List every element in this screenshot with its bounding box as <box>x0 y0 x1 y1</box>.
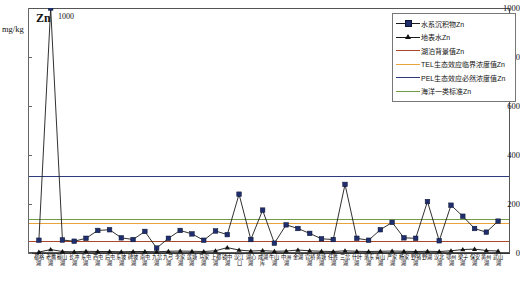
series-line <box>39 248 498 252</box>
data-point <box>60 238 65 243</box>
data-point <box>201 238 206 243</box>
data-point <box>319 236 324 241</box>
x-axis-label: 东屯湖 <box>81 255 91 266</box>
x-axis-label: 野猪湖 <box>411 255 421 266</box>
x-axis-label: 金湖 <box>293 255 303 261</box>
data-point <box>237 192 242 197</box>
data-point <box>131 237 136 242</box>
x-axis-label: 严家湖 <box>387 255 397 266</box>
data-point <box>413 236 418 241</box>
legend-item-0[interactable]: 水系沉积物Zn <box>395 17 512 31</box>
x-axis-label: 碑坡湖 <box>128 255 138 266</box>
legend-swatch-icon <box>395 45 421 57</box>
x-axis-label: 黄州湖 <box>481 255 491 266</box>
data-point <box>366 238 371 243</box>
x-axis-label: 上都湖 <box>211 255 221 266</box>
x-axis-label: 长冲湖 <box>69 255 79 266</box>
x-axis-label: 湖心湖 <box>246 255 256 266</box>
legend-item-5[interactable]: 海洋一类标准Zn <box>395 85 512 99</box>
data-point <box>484 230 489 235</box>
x-axis-label: 野湖 <box>422 255 432 261</box>
data-point <box>472 226 477 231</box>
x-axis-label: 九弓湖 <box>163 255 173 266</box>
data-point <box>425 199 430 204</box>
x-axis-label: 碳山湖 <box>57 255 67 266</box>
x-axis-label: 黄塘湖 <box>316 255 326 266</box>
x-axis-category-labels: 都格湖老鹰湖碳山湖长冲湖东屯湖西屯湖后屯湖东坡湖碑坡湖南屯湖九岔湖九弓湖李家湖莲… <box>28 255 510 293</box>
x-axis-label: 鄂州湖 <box>446 255 456 266</box>
x-axis-label: 任胜湖 <box>328 255 338 266</box>
data-point <box>48 6 53 11</box>
data-point <box>72 239 77 244</box>
data-point <box>143 229 148 234</box>
data-point <box>496 219 501 224</box>
data-point <box>402 236 407 241</box>
data-point <box>260 208 265 213</box>
data-point <box>249 237 254 242</box>
legend-swatch-icon <box>395 58 421 70</box>
legend-label: 地表水Zn <box>421 32 450 42</box>
x-axis-label: 莲塘湖 <box>187 255 197 266</box>
x-axis-label: 九岔湖 <box>152 255 162 266</box>
data-point <box>119 236 124 241</box>
legend-label: 海洋一类标准Zn <box>421 86 471 96</box>
legend-item-4[interactable]: PEL生态效应必然浓度值Zn <box>395 71 512 85</box>
legend-label: 水系沉积物Zn <box>421 19 464 29</box>
data-point <box>449 203 454 208</box>
legend-swatch-icon <box>395 72 421 84</box>
data-point <box>225 232 230 237</box>
legend-item-2[interactable]: 湖泊背景值Zn <box>395 44 512 58</box>
x-axis-label: 老鹰湖 <box>46 255 56 266</box>
data-point <box>178 228 183 233</box>
data-point <box>190 232 195 237</box>
data-point <box>213 229 218 234</box>
data-point <box>342 248 347 252</box>
x-axis-label: 马家湖 <box>199 255 209 266</box>
data-point <box>390 220 395 225</box>
data-point <box>166 236 171 241</box>
square-marker-icon <box>405 20 412 27</box>
x-axis-label: 李家湖 <box>175 255 185 266</box>
x-axis-label: 镜中湖 <box>222 255 232 266</box>
x-axis-label: 汉江口 <box>234 255 244 266</box>
data-point <box>355 236 360 241</box>
x-axis-label: 梁子湖 <box>458 255 468 266</box>
data-point <box>472 246 477 250</box>
legend-item-3[interactable]: TEL生态效应临界浓度值Zn <box>395 58 512 72</box>
chart-legend: 水系沉积物Zn地表水Zn湖泊背景值ZnTEL生态效应临界浓度值ZnPEL生态效应… <box>392 13 516 102</box>
data-point <box>460 214 465 219</box>
x-axis-label: 汉北湖 <box>434 255 444 266</box>
x-axis-label: 都格湖 <box>34 255 44 266</box>
x-axis-label: 三岔湖 <box>340 255 350 266</box>
data-point <box>260 248 265 252</box>
triangle-marker-icon <box>405 34 411 39</box>
legend-swatch-icon <box>395 31 421 43</box>
legend-swatch-icon <box>395 85 421 97</box>
legend-label: TEL生态效应临界浓度值Zn <box>421 59 505 69</box>
data-point <box>95 228 100 233</box>
x-axis-label: 官桥湖 <box>305 255 315 266</box>
x-axis-label: 东坡湖 <box>116 255 126 266</box>
data-point <box>107 227 112 232</box>
data-point <box>331 237 336 242</box>
x-axis-label: 牛山湖 <box>269 255 279 266</box>
x-axis-label: 什叶湖 <box>352 255 362 266</box>
legend-label: 湖泊背景值Zn <box>421 46 464 56</box>
data-point <box>37 238 42 243</box>
x-axis-label: 杨家湖 <box>399 255 409 266</box>
x-axis-label: 成湖库 <box>258 255 268 266</box>
zinc-concentration-chart: mg/kg 02004006008001000 Zn 1000 都格湖老鹰湖碳山… <box>0 0 520 293</box>
data-point <box>296 226 301 231</box>
data-point <box>295 247 300 251</box>
series-1 <box>36 245 500 254</box>
legend-item-1[interactable]: 地表水Zn <box>395 31 512 45</box>
data-point <box>84 236 89 241</box>
data-point <box>307 231 312 236</box>
legend-label: PEL生态效应必然浓度值Zn <box>421 73 505 83</box>
data-point <box>48 247 53 251</box>
x-axis-label: 后屯湖 <box>105 255 115 266</box>
x-axis-label: 落东湖 <box>364 255 374 266</box>
data-point <box>343 182 348 187</box>
x-axis-label: 武山湖 <box>493 255 503 266</box>
x-axis-label: 西屯湖 <box>93 255 103 266</box>
